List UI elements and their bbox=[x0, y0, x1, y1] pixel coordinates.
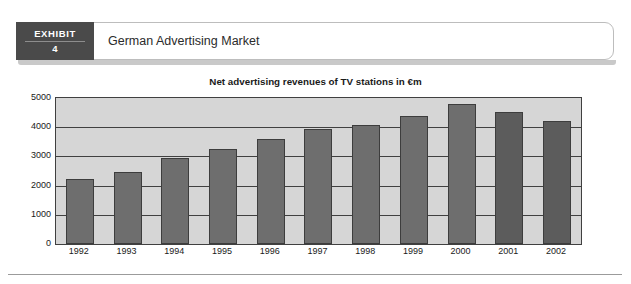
x-axis-tick-label: 1992 bbox=[59, 246, 99, 260]
exhibit-header-shadow bbox=[18, 60, 616, 65]
exhibit-badge: EXHIBIT 4 bbox=[16, 22, 94, 60]
bottom-rule bbox=[8, 274, 622, 275]
bar-2000 bbox=[448, 104, 476, 244]
x-axis-tick-label: 1999 bbox=[393, 246, 433, 260]
x-axis-tick-label: 1997 bbox=[297, 246, 337, 260]
y-axis-labels: 010002000300040005000 bbox=[15, 70, 51, 260]
x-axis-tick-label: 1993 bbox=[107, 246, 147, 260]
bar-1999 bbox=[400, 116, 428, 244]
bar-1998 bbox=[352, 125, 380, 244]
exhibit-header: EXHIBIT 4 German Advertising Market bbox=[16, 22, 614, 60]
plot-area bbox=[55, 97, 582, 245]
bar-1994 bbox=[161, 158, 189, 244]
bar-1992 bbox=[66, 179, 94, 244]
bar-1993 bbox=[114, 172, 142, 244]
y-axis-tick-label: 2000 bbox=[21, 180, 51, 190]
bar-1996 bbox=[257, 139, 285, 244]
x-axis-tick-label: 1994 bbox=[154, 246, 194, 260]
y-axis-tick-label: 3000 bbox=[21, 150, 51, 160]
x-axis-tick-label: 1996 bbox=[250, 246, 290, 260]
y-axis-tick-label: 4000 bbox=[21, 121, 51, 131]
exhibit-header-body bbox=[16, 22, 614, 60]
x-axis-tick-label: 1998 bbox=[345, 246, 385, 260]
exhibit-title: German Advertising Market bbox=[108, 22, 259, 60]
bar-series bbox=[56, 98, 581, 244]
exhibit-badge-divider bbox=[25, 41, 85, 42]
y-axis-tick-label: 0 bbox=[21, 238, 51, 248]
x-axis-labels: 1992199319941995199619971998199920002001… bbox=[55, 246, 580, 260]
x-axis-tick-label: 1995 bbox=[202, 246, 242, 260]
y-axis-tick-label: 1000 bbox=[21, 209, 51, 219]
x-axis-tick-label: 2001 bbox=[488, 246, 528, 260]
bar-chart: Net advertising revenues of TV stations … bbox=[0, 70, 631, 260]
exhibit-badge-number: 4 bbox=[52, 43, 57, 55]
x-axis-tick-label: 2000 bbox=[441, 246, 481, 260]
chart-title: Net advertising revenues of TV stations … bbox=[0, 76, 631, 87]
bar-1997 bbox=[304, 129, 332, 244]
x-axis-tick-label: 2002 bbox=[536, 246, 576, 260]
bar-1995 bbox=[209, 149, 237, 244]
y-axis-tick-label: 5000 bbox=[21, 92, 51, 102]
exhibit-badge-word: EXHIBIT bbox=[34, 28, 76, 40]
bar-2001 bbox=[495, 112, 523, 244]
bar-2002 bbox=[543, 121, 571, 244]
